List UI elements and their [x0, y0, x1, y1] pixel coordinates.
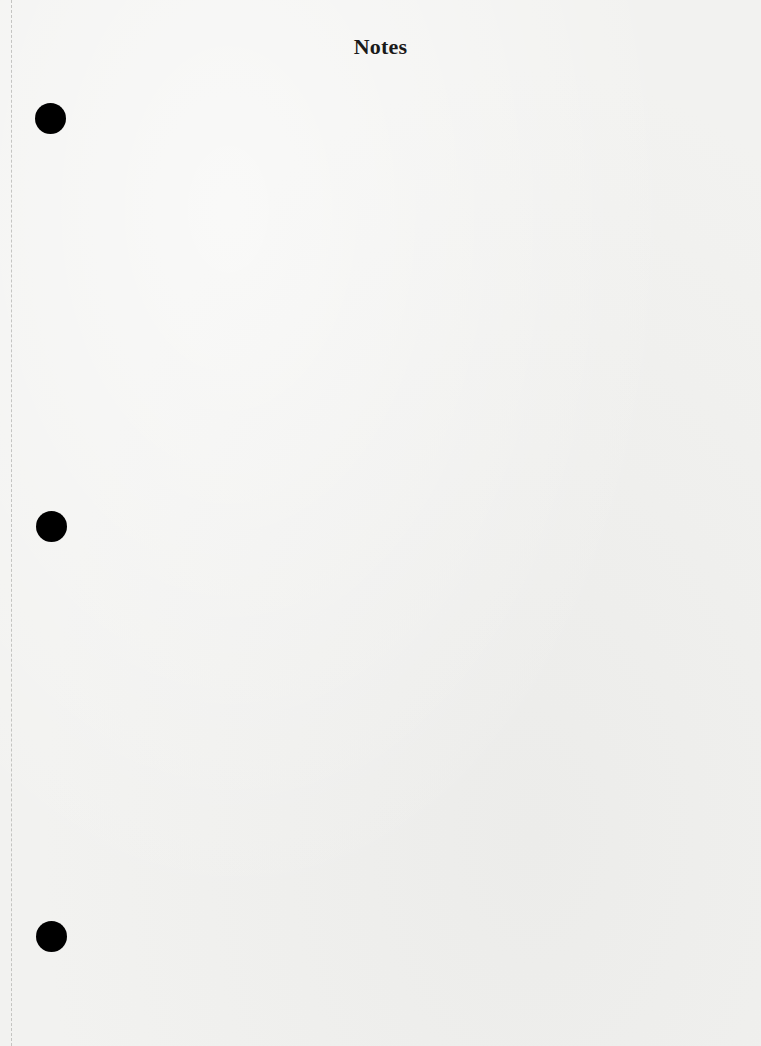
perforation-line [11, 0, 12, 1046]
hole-punch-middle-icon [36, 511, 67, 542]
notes-writing-area [80, 80, 741, 1026]
page-title: Notes [0, 34, 761, 60]
hole-punch-top-icon [35, 103, 66, 134]
notes-page: Notes [0, 0, 761, 1046]
hole-punch-bottom-icon [36, 921, 67, 952]
